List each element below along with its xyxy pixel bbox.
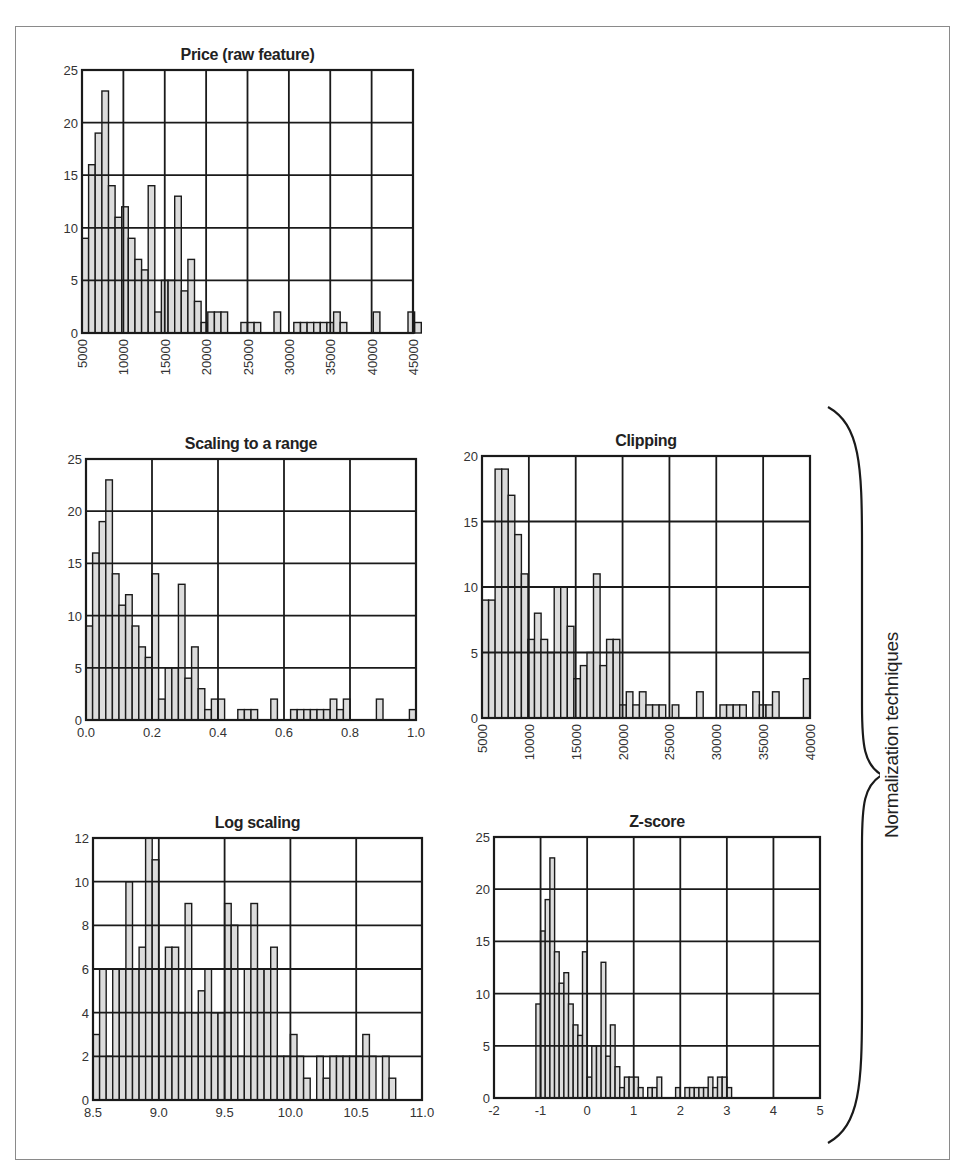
histogram-bar <box>592 1046 597 1098</box>
plot-area: 0510152025500010000150002000025000300003… <box>82 70 413 333</box>
histogram-bar <box>198 689 205 720</box>
histogram-bar <box>600 666 607 718</box>
histogram-bar <box>93 553 100 720</box>
curly-brace-icon <box>820 405 880 1145</box>
histogram-bar <box>697 692 704 718</box>
y-tick-label: 25 <box>68 452 82 467</box>
chart-title: Scaling to a range <box>86 435 416 453</box>
histogram-bar <box>515 535 522 718</box>
bars <box>482 469 810 718</box>
histogram-bar <box>685 1088 690 1098</box>
x-tick-label: 0.4 <box>209 725 227 740</box>
y-tick-label: 15 <box>68 556 82 571</box>
histogram-bar <box>369 1056 376 1100</box>
histogram-bar <box>145 657 152 720</box>
x-tick-label: 0.2 <box>143 725 161 740</box>
histogram-bar <box>535 613 542 718</box>
histogram-bar <box>251 904 258 1101</box>
y-tick-label: 20 <box>68 504 82 519</box>
histogram-bar <box>139 947 146 1100</box>
histogram-bar <box>290 1035 297 1101</box>
x-tick-label: 0.0 <box>77 725 95 740</box>
histogram-bar <box>489 600 496 718</box>
histogram-bar <box>594 574 601 718</box>
histogram-bar <box>626 692 633 718</box>
histogram-bar <box>221 312 228 333</box>
histogram-bar <box>773 692 780 718</box>
histogram-bar <box>195 301 202 333</box>
histogram-bar <box>337 710 344 720</box>
histogram-bar <box>106 480 113 720</box>
histogram-bar <box>690 1088 695 1098</box>
histogram-bar <box>580 666 587 718</box>
histogram-bar <box>350 1056 357 1100</box>
histogram-bar <box>415 323 422 334</box>
histogram-bar <box>277 1056 284 1100</box>
chart-title: Price (raw feature) <box>82 46 413 64</box>
y-tick-label: 25 <box>476 830 490 845</box>
x-tick-label: 10.5 <box>344 1105 369 1120</box>
histogram-bar <box>574 679 581 718</box>
histogram-bar <box>205 710 212 720</box>
histogram-bar <box>340 323 347 334</box>
histogram-bar <box>214 312 221 333</box>
y-tick-label: 0 <box>71 326 78 341</box>
histogram-bar <box>244 969 251 1100</box>
x-tick-label: 10000 <box>116 339 131 375</box>
x-tick-label: 0.8 <box>341 725 359 740</box>
histogram-bar <box>646 705 653 718</box>
bars <box>86 480 416 720</box>
histogram-bar <box>241 323 248 334</box>
histogram-bar <box>159 969 166 1100</box>
histogram-price-raw-feature: Price (raw feature) 05101520255000100001… <box>82 70 413 333</box>
y-tick-label: 15 <box>464 515 478 530</box>
x-tick-label: 3 <box>723 1103 730 1118</box>
histogram-bar <box>258 969 265 1100</box>
histogram-bar <box>633 705 640 718</box>
histogram-bar <box>254 323 261 334</box>
histogram-bar <box>291 710 298 720</box>
histogram-bar <box>727 705 734 718</box>
histogram-bar <box>198 991 205 1100</box>
x-tick-label: 1.0 <box>407 725 425 740</box>
histogram-bar <box>244 710 251 720</box>
histogram-bar <box>175 196 182 333</box>
histogram-bar <box>106 1056 113 1100</box>
histogram-bar <box>132 626 139 720</box>
histogram-bar <box>304 710 311 720</box>
histogram-bar <box>521 574 528 718</box>
x-tick-label: 0 <box>584 1103 591 1118</box>
x-tick-label: 10000 <box>522 724 537 760</box>
histogram-bar <box>119 969 126 1100</box>
y-tick-label: 20 <box>64 116 78 131</box>
histogram-bar <box>133 969 140 1100</box>
histogram-bar <box>567 626 574 718</box>
plot-area: 05101520250.00.20.40.60.81.0 <box>86 459 416 720</box>
y-tick-label: 0 <box>471 711 478 726</box>
histogram-bar <box>264 969 271 1100</box>
histogram-bar <box>297 1056 304 1100</box>
x-tick-label: 0.6 <box>275 725 293 740</box>
x-tick-label: 10.0 <box>278 1105 303 1120</box>
histogram-bar <box>310 710 317 720</box>
histogram-bar <box>334 312 341 333</box>
plot-area: 0246810128.59.09.510.010.511.0 <box>93 838 422 1100</box>
tick-labels: 0510152025-2-1012345 <box>476 830 824 1118</box>
histogram-bar <box>343 1056 350 1100</box>
histogram-bar <box>587 653 594 719</box>
histogram-bar <box>337 1056 344 1100</box>
histogram-bar <box>211 699 218 720</box>
y-tick-label: 5 <box>483 1039 490 1054</box>
plot-area: 0510152050001000015000200002500030000350… <box>482 456 810 718</box>
histogram-bar <box>356 1056 363 1100</box>
x-tick-label: 45000 <box>406 339 421 375</box>
histogram-bar <box>218 699 225 720</box>
histogram-bar <box>185 678 192 720</box>
y-tick-label: 20 <box>464 449 478 464</box>
histogram-bar <box>238 1056 245 1100</box>
histogram-bar <box>168 280 175 333</box>
histogram-bar <box>274 312 281 333</box>
y-tick-label: 10 <box>476 987 490 1002</box>
histogram-bar <box>740 705 747 718</box>
histogram-bar <box>657 1077 662 1098</box>
